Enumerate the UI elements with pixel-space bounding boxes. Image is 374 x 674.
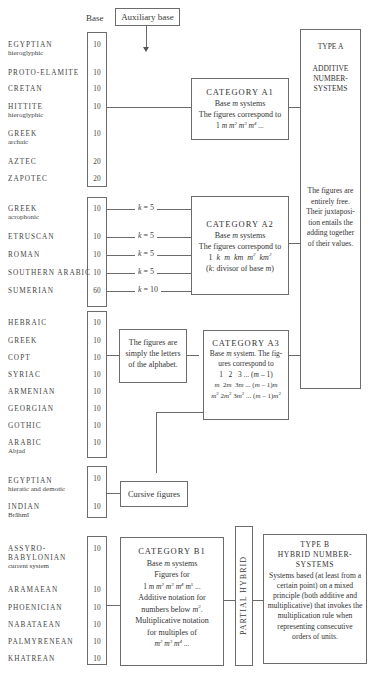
category-a3-line: ures correspond to <box>204 359 288 370</box>
system-name: ARMENIAN <box>8 387 55 396</box>
type-a-description: The figures are entirely free. Their jux… <box>304 186 357 249</box>
type-a-subtitle: NUMBER- <box>304 74 357 84</box>
category-b1-line: Figures for <box>121 569 223 581</box>
connector-a3-typea <box>289 355 300 356</box>
k-label: k = 5 <box>135 249 157 258</box>
base-value: 10 <box>87 387 107 396</box>
system-name: SYRIAC <box>8 370 41 379</box>
type-a-subtitle: SYSTEMS <box>304 84 357 94</box>
category-a3-formula: m 2m 3m ... (m – 1)m <box>204 380 288 391</box>
system-name: ASSYRO-BABYLONIANcurrent system <box>8 544 76 571</box>
base-value: 10 <box>87 40 107 49</box>
base-value: 10 <box>87 250 107 259</box>
base-value: 10 <box>87 336 107 345</box>
auxiliary-base-header: Auxiliary base <box>115 8 180 26</box>
arrow-down-icon <box>143 47 149 52</box>
category-a2-line: The figures correspond to <box>192 241 288 252</box>
system-name: GREEKacrophonic <box>8 204 39 222</box>
category-a2-title: CATEGORY A2 <box>192 219 288 230</box>
category-a3-formula: m2 2m2 3m2 ... (m – 1)m2 <box>204 391 288 402</box>
system-name: GREEK <box>8 336 37 345</box>
base-value: 10 <box>87 353 107 362</box>
system-name: PALMYRENEAN <box>8 637 73 646</box>
base-value: 10 <box>87 268 107 277</box>
system-name: NABATAEAN <box>8 620 61 629</box>
category-b1-formula: m2 m3 m4 ... <box>121 638 223 650</box>
base-value: 10 <box>87 232 107 241</box>
connector-group3-letters <box>107 355 119 356</box>
base-value: 10 <box>87 544 107 553</box>
system-name: HEBRAIC <box>8 318 47 327</box>
category-a3-line: Base m system. The fig- <box>204 349 288 360</box>
base-column-header: Base <box>86 13 104 23</box>
category-a1-line: The figures correspond to <box>192 109 288 120</box>
base-value: 10 <box>87 129 107 138</box>
type-b-subtitle: SYSTEMS <box>267 560 363 570</box>
category-a3-formula: 1 2 3 ... (m – 1) <box>204 370 288 381</box>
connector-cursive-a3-h <box>156 412 203 413</box>
connector-b1-partial <box>224 600 235 601</box>
category-a1-box: CATEGORY A1 Base m systems The figures c… <box>191 78 289 140</box>
connector-group4-cursive <box>107 493 120 494</box>
system-name: AZTEC <box>8 157 37 166</box>
category-b1-line: for multiples of <box>121 627 223 639</box>
system-name: PROTO-ELAMITE <box>8 68 79 77</box>
category-b1-line: Additive notation for <box>121 592 223 604</box>
category-a2-note: (k: divisor of base m) <box>192 263 288 274</box>
system-name: KHATREAN <box>8 654 55 663</box>
category-b1-line: numbers below m2. <box>121 604 223 616</box>
connector-cursive-a3-v <box>156 412 157 473</box>
system-name: GOTHIC <box>8 421 42 430</box>
category-a1-line: Base m systems <box>192 98 288 109</box>
type-b-subtitle: HYBRID NUMBER- <box>267 550 363 560</box>
category-b1-line: Base m systems <box>121 558 223 570</box>
base-value: 10 <box>87 204 107 213</box>
system-name: ARABICAbjad <box>8 438 42 456</box>
type-a-box: TYPE A ADDITIVE NUMBER- SYSTEMS The figu… <box>300 29 361 389</box>
connector-group5-b1 <box>107 605 120 606</box>
type-b-box: TYPE B HYBRID NUMBER- SYSTEMS Systems ba… <box>263 534 367 664</box>
k-label: k = 10 <box>135 285 161 294</box>
base-value: 10 <box>87 438 107 447</box>
base-value: 10 <box>87 68 107 77</box>
partial-hybrid-label: PARTIAL HYBRID <box>239 540 248 652</box>
connector-letters-a3 <box>187 355 199 356</box>
category-a3-box: CATEGORY A3 Base m system. The fig- ures… <box>203 330 289 420</box>
system-name: GEORGIAN <box>8 404 54 413</box>
group3-base-column <box>87 311 107 458</box>
connector-a2-typea <box>289 243 300 244</box>
k-label: k = 5 <box>135 267 157 276</box>
type-a-subtitle: ADDITIVE <box>304 64 357 74</box>
base-value: 10 <box>87 474 107 483</box>
cursive-box-text: Cursive figures <box>128 489 180 499</box>
connector-a1-typea <box>289 107 300 108</box>
category-a2-box: CATEGORY A2 Base m systems The figures c… <box>191 196 289 295</box>
base-value: 10 <box>87 603 107 612</box>
letters-box-text: The figures are simply the letters of th… <box>125 338 180 369</box>
base-value: 10 <box>87 502 107 511</box>
system-name: CRETAN <box>8 84 43 93</box>
category-b1-line: Multiplicative notation <box>121 615 223 627</box>
connector-group1-a1 <box>107 107 191 108</box>
base-value: 10 <box>87 585 107 594</box>
type-a-title: TYPE A <box>304 42 357 52</box>
auxiliary-base-label: Auxiliary base <box>121 12 174 22</box>
system-name: ETRUSCAN <box>8 232 55 241</box>
category-a3-title: CATEGORY A3 <box>204 338 288 349</box>
base-value: 10 <box>87 370 107 379</box>
k-label: k = 5 <box>135 231 157 240</box>
base-value: 10 <box>87 102 107 111</box>
system-name: ROMAN <box>8 250 40 259</box>
base-value: 10 <box>87 404 107 413</box>
base-value: 10 <box>87 654 107 663</box>
system-name: INDIANBrāhmī <box>8 502 40 520</box>
base-value: 10 <box>87 318 107 327</box>
category-a2-line: Base m systems <box>192 230 288 241</box>
category-b1-title: CATEGORY B1 <box>121 546 223 558</box>
base-value: 10 <box>87 421 107 430</box>
system-name: SOUTHERN ARABIC <box>8 268 91 277</box>
category-a1-formula: 1 m m2 m3 m4 ... <box>192 120 288 131</box>
base-value: 10 <box>87 620 107 629</box>
system-name: EGYPTIANhieratic and demotic <box>8 476 65 494</box>
type-b-description: Systems based (at least from a certain p… <box>267 571 363 642</box>
